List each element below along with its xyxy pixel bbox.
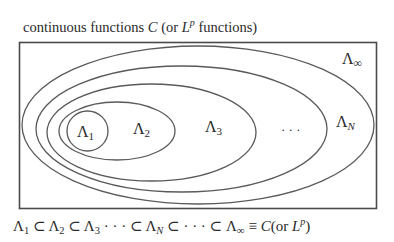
nested-sets-diagram: continuous functions C (or Lp functions)…: [0, 0, 394, 242]
label-lambda-1: Λ1: [77, 123, 94, 142]
diagram-title: continuous functions C (or Lp functions): [23, 17, 257, 36]
label-lambda-2: Λ2: [133, 120, 150, 139]
universe-frame: [20, 43, 377, 209]
label-lambda-inf: Λ∞: [342, 50, 362, 70]
inclusion-formula: Λ1 ⊂ Λ2 ⊂ Λ3 · · · ⊂ ΛN ⊂ · · · ⊂ Λ∞ ≡ C…: [13, 216, 310, 236]
label-lambda-n: ΛN: [336, 113, 356, 132]
label-lambda-3: Λ3: [205, 118, 223, 137]
label-ellipsis: · · ·: [281, 122, 301, 137]
set-lambda-inf-ellipse: [22, 46, 374, 204]
